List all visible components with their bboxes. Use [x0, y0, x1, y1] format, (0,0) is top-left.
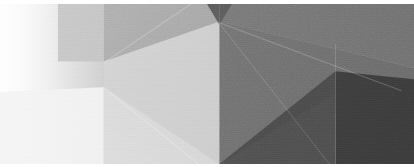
bottom-white-margin: [0, 164, 414, 167]
faceted-surface-image: [0, 4, 414, 164]
image-canvas: Faceted grayscale surface Low-resolution…: [0, 0, 414, 167]
